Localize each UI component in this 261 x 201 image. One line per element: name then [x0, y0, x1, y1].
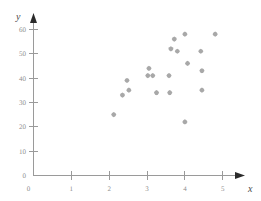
y-tick-label: 10	[19, 148, 27, 156]
data-point	[182, 119, 187, 124]
x-tick-label: 2	[107, 185, 111, 193]
x-tick-label: 5	[221, 185, 225, 193]
data-point	[111, 112, 116, 117]
x-tick-label: 0	[27, 185, 31, 193]
data-point	[126, 88, 131, 93]
x-axis: 012345	[27, 171, 245, 193]
data-point	[182, 32, 187, 37]
data-point	[185, 61, 190, 66]
data-point	[124, 78, 129, 83]
x-axis-tick-labels: 012345	[27, 185, 225, 193]
scatter-plot-figure: 0102030405060 012345 y x	[0, 0, 261, 201]
y-tick-label: 50	[19, 50, 27, 58]
data-point	[213, 32, 218, 37]
y-tick-label: 30	[19, 99, 27, 107]
y-tick-label: 0	[23, 172, 27, 180]
y-axis-arrow-icon	[30, 13, 37, 23]
data-point	[150, 73, 155, 78]
data-point	[154, 90, 159, 95]
data-point	[167, 90, 172, 95]
data-point	[198, 49, 203, 54]
y-tick-label: 60	[19, 26, 27, 34]
y-axis: 0102030405060	[19, 13, 38, 180]
x-axis-arrow-icon	[235, 172, 245, 179]
x-tick-label: 1	[70, 185, 74, 193]
data-points-layer	[111, 32, 218, 125]
data-point	[146, 66, 151, 71]
y-axis-tick-labels: 0102030405060	[19, 26, 27, 180]
x-tick-label: 3	[145, 185, 149, 193]
x-tick-label: 4	[183, 185, 187, 193]
data-point	[166, 73, 171, 78]
data-point	[168, 46, 173, 51]
data-point	[175, 49, 180, 54]
data-point	[145, 73, 150, 78]
y-tick-label: 40	[19, 75, 27, 83]
y-tick-label: 20	[19, 123, 27, 131]
data-point	[172, 36, 177, 41]
y-axis-label: y	[15, 11, 21, 22]
data-point	[120, 93, 125, 98]
data-point	[199, 68, 204, 73]
plot-canvas: 0102030405060 012345 y x	[0, 0, 261, 201]
x-axis-label: x	[247, 183, 253, 194]
data-point	[199, 88, 204, 93]
